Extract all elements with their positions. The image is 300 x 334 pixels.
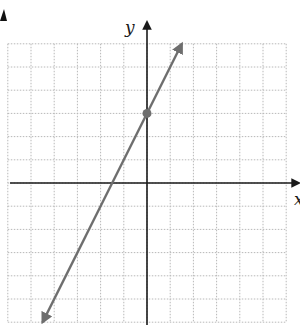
x-axis-label: x [294, 189, 300, 209]
coordinate-plane: y x [0, 0, 300, 334]
y-axis-label: y [124, 17, 135, 37]
y-intercept-point [143, 109, 152, 118]
corner-fragment-icon [0, 9, 7, 21]
